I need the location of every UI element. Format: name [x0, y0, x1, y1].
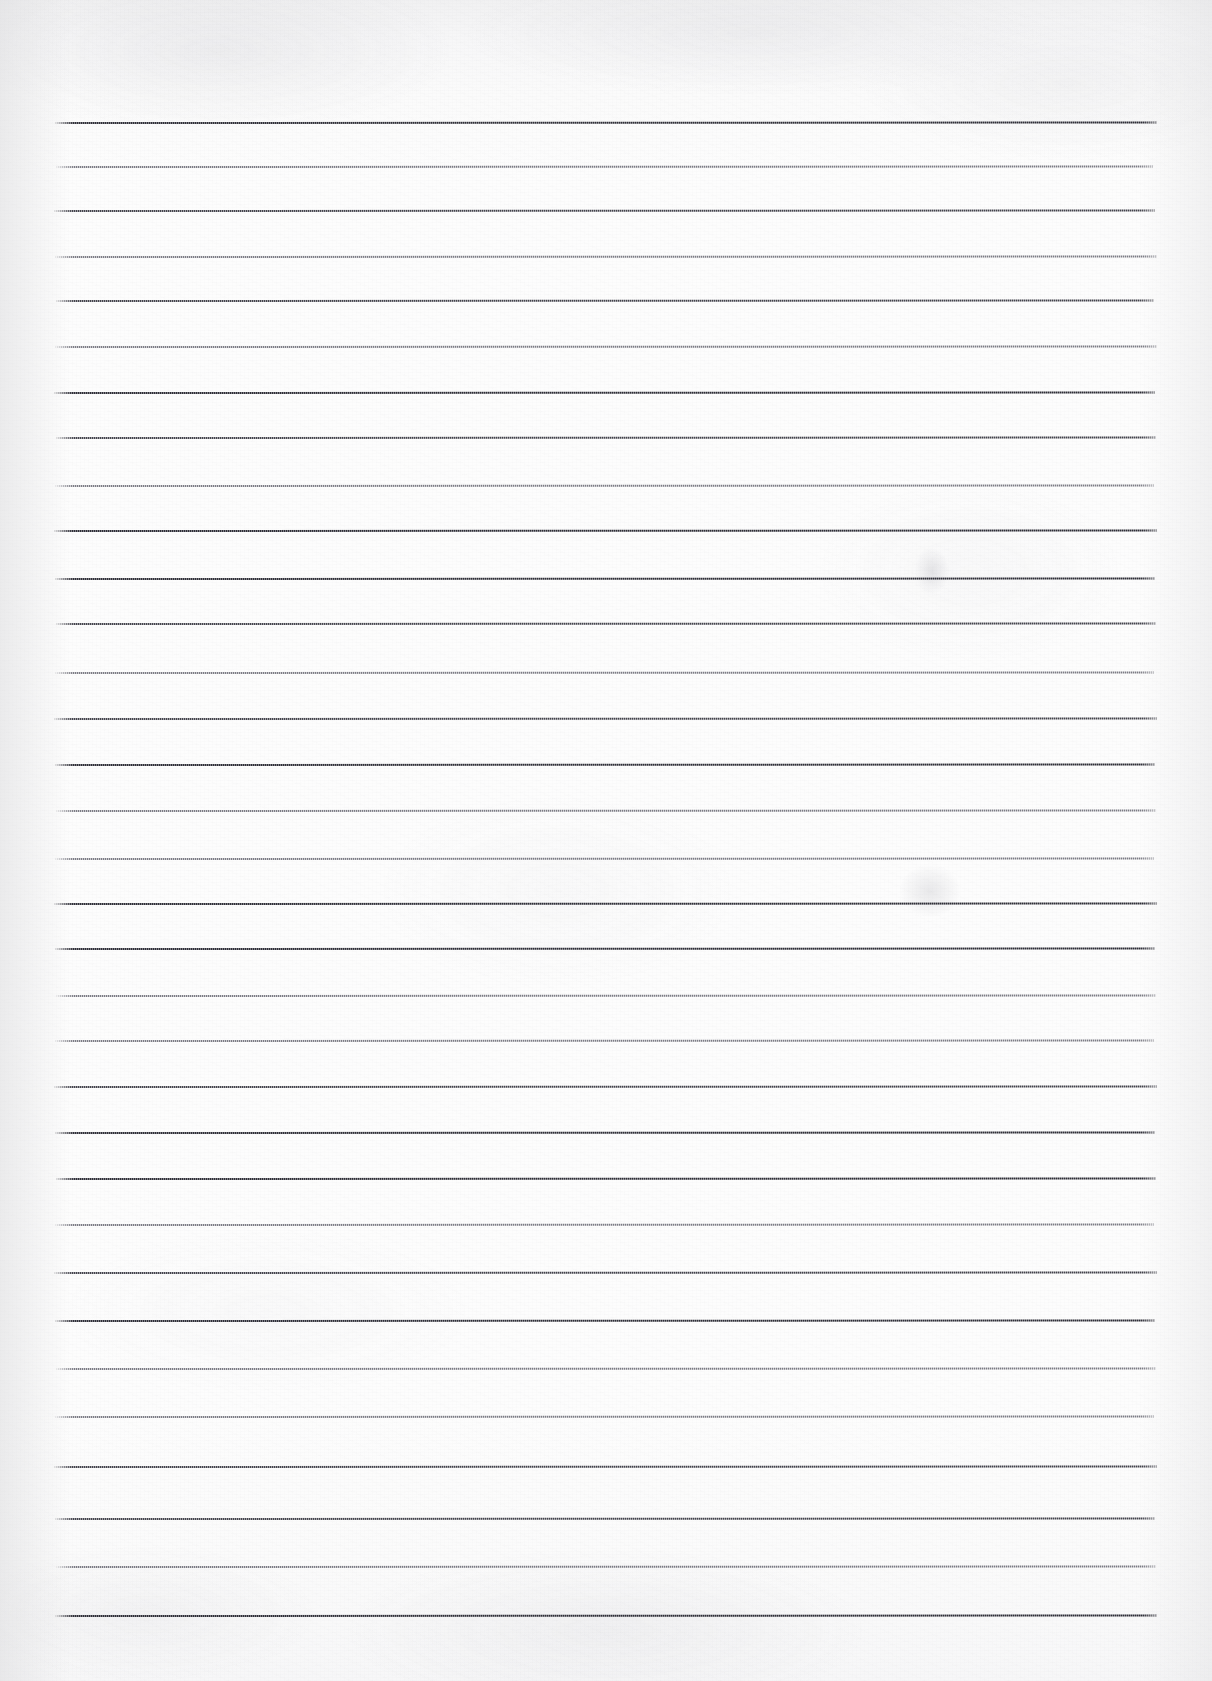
ruled-line: [56, 166, 1153, 168]
ruled-line: [56, 1566, 1156, 1568]
ruled-line: [55, 858, 1154, 860]
ruled-line-ink: [56, 299, 1154, 302]
ruled-line-ink: [55, 858, 1154, 860]
ruled-line: [56, 437, 1156, 439]
ruled-lines-group: [0, 0, 1212, 1681]
ruled-line-ink: [55, 578, 1155, 580]
ruled-line-ink: [56, 995, 1156, 997]
ruled-line-ink: [56, 1566, 1156, 1568]
ruled-line: [54, 718, 1157, 720]
ruled-line: [55, 578, 1155, 580]
ruled-line: [56, 623, 1156, 625]
ruled-line-ink: [55, 1517, 1155, 1520]
ruled-line: [55, 1416, 1154, 1418]
ruled-line: [55, 1223, 1154, 1226]
ruled-line-ink: [56, 1178, 1156, 1180]
ruled-line-ink: [55, 121, 1157, 124]
ruled-line: [55, 1615, 1157, 1617]
ruled-line-ink: [55, 256, 1157, 258]
ruled-line: [55, 1517, 1155, 1520]
ruled-line: [55, 1320, 1155, 1322]
ruled-line: [55, 764, 1155, 766]
ruled-line-ink: [55, 671, 1154, 674]
ruled-line-ink: [55, 947, 1155, 950]
ruled-line-ink: [56, 1367, 1156, 1370]
ruled-line-ink: [54, 1466, 1157, 1468]
ruled-line: [55, 947, 1155, 950]
ruled-line: [56, 1178, 1156, 1180]
ruled-line: [56, 299, 1154, 302]
ruled-line-ink: [56, 437, 1156, 439]
ruled-line-ink: [54, 903, 1157, 905]
ruled-line-ink: [55, 1615, 1157, 1617]
ruled-line: [54, 209, 1155, 212]
ruled-line-ink: [56, 623, 1156, 625]
ruled-line: [54, 1085, 1157, 1088]
ruled-line-ink: [55, 346, 1157, 348]
ruled-line: [55, 1132, 1155, 1134]
ruled-line-ink: [54, 391, 1155, 394]
ruled-line: [55, 1040, 1154, 1042]
ruled-line-ink: [54, 209, 1155, 212]
ruled-line: [54, 529, 1157, 532]
ruled-line: [56, 995, 1156, 997]
ruled-line-ink: [55, 1416, 1154, 1418]
ruled-line: [55, 346, 1157, 348]
ruled-line: [55, 256, 1157, 258]
ruled-line-ink: [56, 809, 1156, 812]
ruled-line-ink: [54, 718, 1157, 720]
ruled-line-ink: [55, 1320, 1155, 1322]
ruled-line: [54, 391, 1155, 394]
ruled-line-ink: [54, 1085, 1157, 1088]
ruled-line: [55, 671, 1154, 674]
ruled-line-ink: [55, 1223, 1154, 1226]
ruled-line: [54, 1466, 1157, 1468]
ruled-line: [54, 903, 1157, 905]
ruled-line: [55, 485, 1154, 487]
ruled-line-ink: [55, 1040, 1154, 1042]
ruled-line-ink: [56, 166, 1153, 168]
ruled-line: [56, 1367, 1156, 1370]
ruled-line-ink: [55, 764, 1155, 766]
ruled-line-ink: [55, 1132, 1155, 1134]
ruled-line-ink: [54, 529, 1157, 532]
ruled-line: [56, 809, 1156, 812]
scanned-page: [0, 0, 1212, 1681]
ruled-line-ink: [55, 485, 1154, 487]
ruled-line: [55, 121, 1157, 124]
ruled-line: [54, 1272, 1157, 1274]
ruled-line-ink: [54, 1272, 1157, 1274]
